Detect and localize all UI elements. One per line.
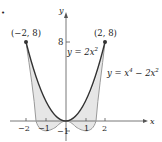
y-axis-arrow-icon — [64, 12, 68, 18]
x-tick-label-2: 2 — [102, 124, 107, 133]
y-tick-label-neg1: −1 — [57, 127, 69, 136]
area-between-curves-diagram: • y x (−2, 8) (2, 8) 8 −1 −2 −1 1 2 y = … — [0, 0, 162, 142]
x-axis-label: x — [150, 117, 155, 126]
parabola-eq-base: y = 2x — [66, 47, 95, 57]
quartic-equation: y = x4 − 2x2 — [106, 67, 159, 78]
y-axis-label: y — [58, 6, 64, 15]
parabola-eq-exp: 2 — [94, 46, 99, 52]
x-tick-label-neg1: −1 — [38, 124, 50, 133]
point-label-2-8: (2, 8) — [94, 28, 117, 38]
x-axis-arrow-icon — [143, 119, 148, 123]
quartic-eq-exp2: 2 — [154, 67, 159, 73]
point-label-neg2-8: (−2, 8) — [11, 28, 41, 38]
bullet-mark: • — [1, 9, 5, 17]
point-2-8 — [103, 40, 107, 44]
x-tick-label-1: 1 — [84, 124, 89, 133]
y-tick-label-8: 8 — [58, 37, 63, 47]
quartic-eq-middle: − 2x — [133, 68, 156, 78]
quartic-eq-base: y = x — [106, 68, 129, 78]
point-neg2-8 — [24, 40, 28, 44]
x-tick-label-neg2: −2 — [18, 124, 30, 133]
parabola-equation: y = 2x2 — [66, 46, 99, 57]
